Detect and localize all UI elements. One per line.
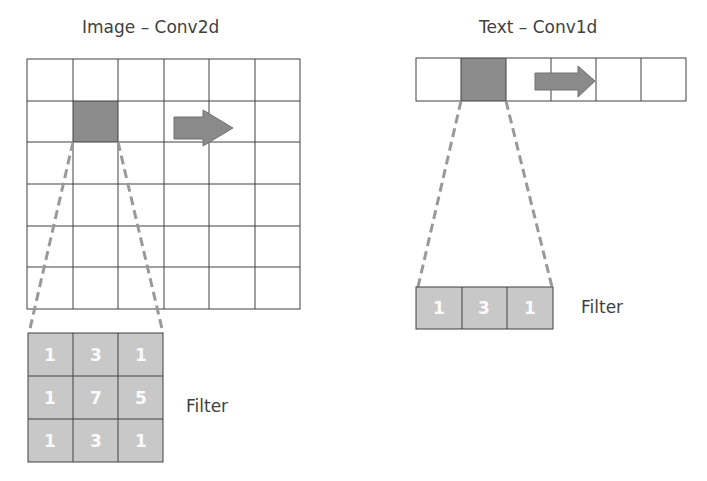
image-grid: [27, 59, 300, 309]
right-arrow-icon: [535, 66, 595, 97]
svg-text:1: 1: [44, 388, 56, 408]
svg-text:1: 1: [44, 345, 56, 365]
svg-text:1: 1: [524, 298, 536, 318]
svg-text:3: 3: [90, 431, 102, 451]
svg-text:1: 1: [135, 431, 147, 451]
filter-3x3: 1 3 1 1 7 5 1 3 1: [28, 333, 163, 462]
svg-text:1: 1: [44, 431, 56, 451]
highlighted-cell: [73, 101, 118, 142]
highlighted-cell: [461, 58, 506, 101]
svg-text:1: 1: [135, 345, 147, 365]
svg-text:3: 3: [478, 298, 490, 318]
right-arrow-icon: [174, 110, 233, 146]
svg-text:3: 3: [90, 345, 102, 365]
projection-lines: [29, 142, 163, 333]
svg-text:7: 7: [90, 388, 102, 408]
conv2d-filter-label: Filter: [186, 396, 228, 416]
filter-1x3: 1 3 1: [416, 287, 553, 329]
text-sequence: [416, 58, 686, 101]
projection-lines: [418, 101, 552, 287]
svg-text:1: 1: [433, 298, 445, 318]
conv-diagram: 1 3 1 1 7 5 1 3 1 1 3 1: [0, 0, 707, 481]
svg-text:5: 5: [135, 388, 147, 408]
conv1d-filter-label: Filter: [581, 297, 623, 317]
